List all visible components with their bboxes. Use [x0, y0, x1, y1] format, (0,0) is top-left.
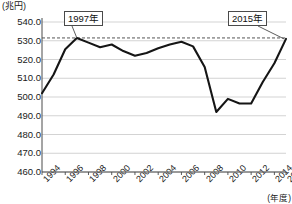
gridlines	[42, 22, 286, 172]
chart-container: (兆円) (年度) 540.0530.0520.0510.0500.0490.0…	[0, 0, 292, 204]
callout-leader-2015	[258, 26, 284, 39]
annotation-2015: 2015年	[228, 11, 267, 26]
plot-area	[0, 0, 292, 204]
data-series-line	[42, 38, 286, 112]
callout-leader-1997	[72, 26, 77, 38]
annotation-1997: 1997年	[64, 11, 103, 26]
